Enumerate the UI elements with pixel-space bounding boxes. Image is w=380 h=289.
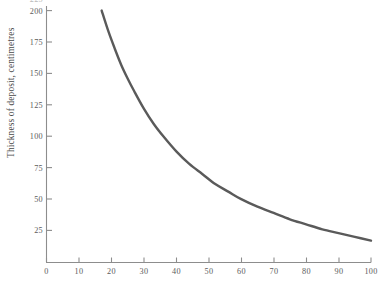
y-axis-title: Thickness of deposit, centimetres	[6, 27, 16, 158]
y-tick-label-200: 200	[30, 7, 43, 16]
x-tick-label-90: 90	[335, 267, 344, 276]
x-tick-label-60: 60	[237, 267, 246, 276]
x-tick-label-100: 100	[364, 267, 377, 276]
y-tick-label-100: 100	[30, 132, 43, 141]
chart-canvas: 225 200 175 150 125 100 75 50 25 0	[0, 0, 380, 289]
y-tick-label-150: 150	[30, 69, 43, 78]
y-tick-label-25: 25	[34, 226, 43, 235]
x-tick-label-30: 30	[140, 267, 149, 276]
x-tick-label-80: 80	[302, 267, 311, 276]
x-tick-label-40: 40	[172, 267, 181, 276]
x-tick-label-0: 0	[44, 267, 48, 276]
y-tick-label-75: 75	[34, 164, 43, 173]
x-tick-label-70: 70	[270, 267, 279, 276]
y-tick-label-125: 125	[30, 101, 43, 110]
x-tick-label-20: 20	[107, 267, 116, 276]
y-tick-label-50: 50	[34, 195, 43, 204]
chart-figure: 225 200 175 150 125 100 75 50 25 0	[0, 0, 380, 289]
y-tick-label-175: 175	[30, 38, 43, 47]
y-tick-label-225: 225	[30, 0, 43, 4]
x-tick-label-10: 10	[75, 267, 84, 276]
x-tick-label-50: 50	[205, 267, 214, 276]
chart-background	[0, 0, 380, 289]
